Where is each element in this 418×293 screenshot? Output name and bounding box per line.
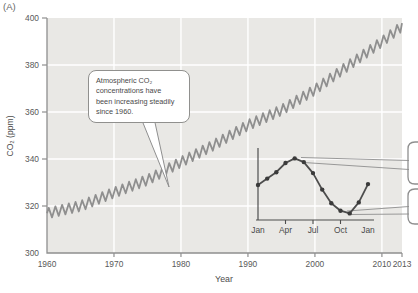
- x-tick-label: 1960: [38, 259, 57, 269]
- x-tick-label: 1980: [172, 259, 191, 269]
- callout-bracket-top: [408, 142, 418, 184]
- y-axis-title: CO₂ (ppm): [5, 115, 15, 156]
- inset-x-tick-label: Oct: [334, 225, 348, 235]
- inset-data-point: [293, 156, 297, 160]
- y-tick-label: 340: [25, 154, 39, 164]
- y-tick-label: 360: [25, 107, 39, 117]
- x-tick-label: 1970: [105, 259, 124, 269]
- inset-data-point: [265, 176, 269, 180]
- x-axis-title: Year: [215, 274, 233, 284]
- co2-chart-svg: 3003203403603804001960197019801990200020…: [0, 0, 418, 293]
- trough-connector-line: [350, 214, 409, 215]
- y-tick-label: 300: [25, 248, 39, 258]
- inset-data-point: [302, 160, 306, 164]
- y-tick-label: 380: [25, 60, 39, 70]
- inset-data-point: [256, 183, 260, 187]
- keeling-curve-figure: (A) 300320340360380400196019701980199020…: [0, 0, 418, 293]
- callout-bracket-bottom: [408, 189, 418, 224]
- inset-data-point: [338, 209, 342, 213]
- x-tick-label: 2010: [373, 259, 392, 269]
- inset-data-point: [283, 161, 287, 165]
- inset-x-tick-label: Jul: [308, 225, 319, 235]
- inset-x-tick-label: Jan: [251, 225, 265, 235]
- x-tick-label: 2013: [393, 259, 412, 269]
- inset-data-point: [366, 182, 370, 186]
- x-tick-label: 1990: [239, 259, 258, 269]
- x-tick-label: 2000: [306, 259, 325, 269]
- y-tick-label: 320: [25, 201, 39, 211]
- inset-data-point: [320, 187, 324, 191]
- inset-data-point: [348, 211, 352, 215]
- inset-x-tick-label: Jan: [361, 225, 375, 235]
- y-tick-label: 400: [25, 13, 39, 23]
- annotation-callout: Atmospheric CO₂ concentrations have been…: [88, 70, 190, 123]
- inset-data-point: [274, 170, 278, 174]
- inset-x-tick-label: Apr: [279, 225, 292, 235]
- inset-data-point: [329, 201, 333, 205]
- inset-data-point: [311, 171, 315, 175]
- inset-data-point: [357, 200, 361, 204]
- plot-area: [47, 18, 402, 253]
